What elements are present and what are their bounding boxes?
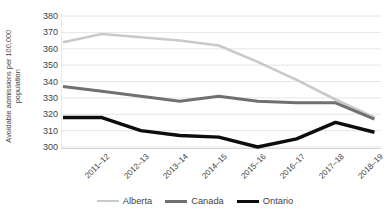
chart-legend: AlbertaCanadaOntario [0, 192, 390, 210]
legend-item-canada[interactable]: Canada [165, 196, 224, 206]
x-axis-tick-label: 2016–17 [278, 152, 307, 181]
legend-label: Alberta [123, 196, 152, 206]
x-axis-tick-label: 2011–12 [83, 152, 111, 180]
x-axis-tick-label: 2014–15 [200, 152, 229, 181]
x-axis-tick-label: 2012–13 [122, 152, 151, 181]
legend-swatch-icon [97, 200, 119, 202]
avoidable-admissions-line-chart: Avoidable admissions per 100,000 populat… [0, 0, 390, 213]
x-axis-tick-label: 2017–18 [317, 152, 346, 181]
x-axis-tick-label: 2018–19 [356, 152, 385, 181]
x-axis-tick-label: 2015–16 [239, 152, 268, 181]
legend-label: Canada [191, 196, 224, 206]
x-axis-tick-label: 2013–14 [161, 152, 190, 181]
legend-item-ontario[interactable]: Ontario [237, 196, 294, 206]
legend-label: Ontario [263, 196, 294, 206]
x-axis-tick-labels: 2011–122012–132013–142014–152015–162016–… [0, 0, 390, 213]
legend-item-alberta[interactable]: Alberta [97, 196, 152, 206]
legend-swatch-icon [165, 200, 187, 203]
legend-swatch-icon [237, 200, 259, 203]
